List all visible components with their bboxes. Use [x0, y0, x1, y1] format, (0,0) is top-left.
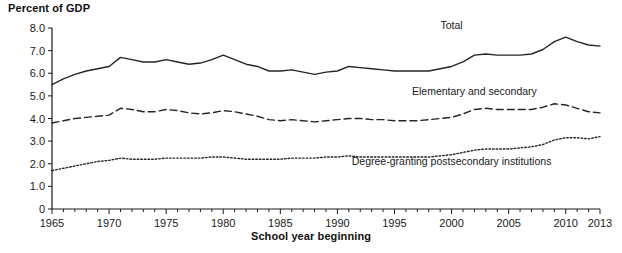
x-tick-label: 2010 — [554, 217, 578, 229]
y-tick-label: 2.0 — [30, 158, 45, 170]
y-tick-label: 8.0 — [30, 22, 45, 34]
x-tick-label: 1975 — [154, 217, 178, 229]
chart-container: Percent of GDP 8.07.06.05.04.03.02.01.00… — [0, 0, 622, 253]
series-line-1 — [52, 104, 600, 123]
x-axis-tick-group: 1965197019751980198519901995200020052010… — [40, 209, 612, 229]
y-tick-label: 3.0 — [30, 135, 45, 147]
x-tick-label: 2013 — [588, 217, 612, 229]
y-axis-tick-group: 8.07.06.05.04.03.02.01.00 — [30, 22, 52, 215]
y-tick-label: 4.0 — [30, 113, 45, 125]
y-tick-label: 5.0 — [30, 90, 45, 102]
x-axis-title: School year beginning — [0, 230, 622, 242]
series-label-group: TotalElementary and secondaryDegree-gran… — [352, 19, 552, 167]
series-group — [52, 37, 600, 170]
x-tick-label: 1965 — [40, 217, 64, 229]
y-tick-label: 1.0 — [30, 180, 45, 192]
series-label-0: Total — [440, 19, 462, 31]
x-tick-label: 2000 — [439, 217, 463, 229]
x-tick-label: 1985 — [268, 217, 292, 229]
series-label-2: Degree-granting postsecondary institutio… — [352, 155, 552, 167]
x-tick-label: 2005 — [496, 217, 520, 229]
x-tick-label: 1995 — [382, 217, 406, 229]
y-tick-label: 0 — [39, 203, 45, 215]
line-chart: 8.07.06.05.04.03.02.01.00 19651970197519… — [0, 0, 622, 253]
x-tick-label: 1990 — [325, 217, 349, 229]
y-tick-label: 7.0 — [30, 45, 45, 57]
x-tick-label: 1980 — [211, 217, 235, 229]
x-tick-label: 1970 — [97, 217, 121, 229]
series-line-0 — [52, 37, 600, 85]
series-label-1: Elementary and secondary — [412, 85, 538, 97]
y-tick-label: 6.0 — [30, 67, 45, 79]
